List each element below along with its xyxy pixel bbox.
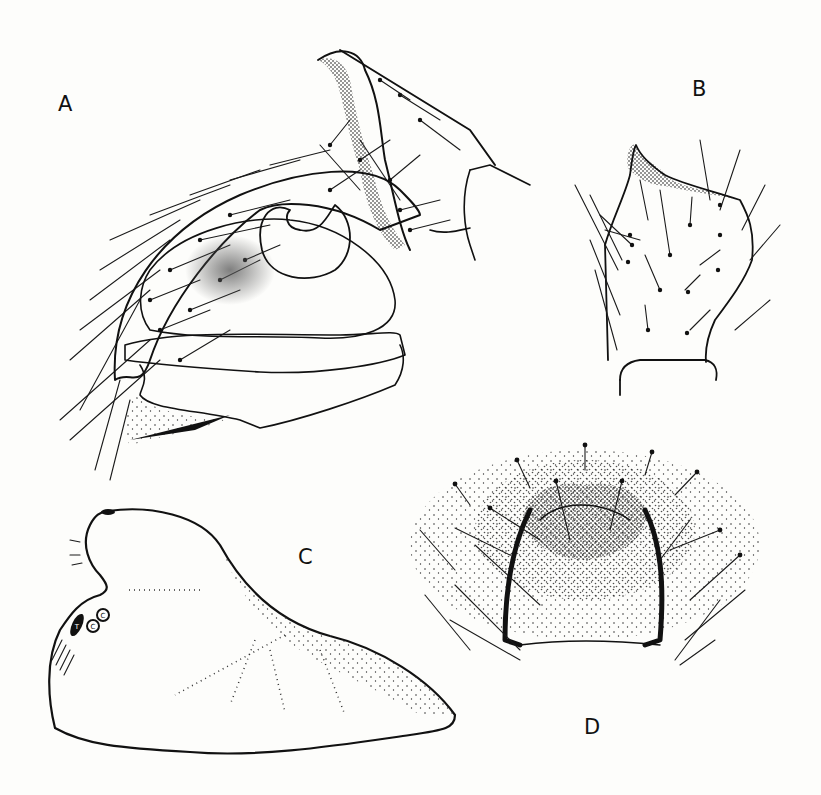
figure-a-drawing <box>60 50 530 480</box>
marker-c1: C <box>91 623 96 631</box>
figure-b-drawing <box>575 140 780 395</box>
illustration-plate: T C C <box>0 0 821 795</box>
figure-label-d: D <box>584 715 600 739</box>
figure-label-b: B <box>692 77 706 101</box>
figure-label-a: A <box>58 92 72 116</box>
figure-d-drawing <box>410 443 760 665</box>
plate-drawing: T C C <box>0 0 821 795</box>
marker-c2: C <box>101 612 106 620</box>
marker-t: T <box>74 623 80 631</box>
figure-label-c: C <box>298 545 313 569</box>
